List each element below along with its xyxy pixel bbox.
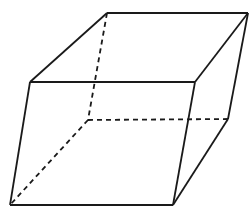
figure-canvas: [0, 0, 252, 216]
face-front: [10, 82, 195, 205]
box-wireframe-svg: [0, 0, 252, 216]
box-faces: [10, 13, 248, 205]
